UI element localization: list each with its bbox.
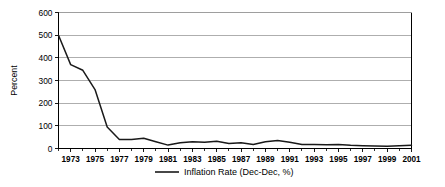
x-tick-label: 1987	[232, 155, 251, 164]
y-axis-title: Percent	[9, 65, 19, 96]
y-tick-label: 300	[39, 76, 53, 86]
x-tick-label: 1973	[62, 155, 81, 164]
x-tick-label: 1975	[86, 155, 105, 164]
y-tick-label: 200	[39, 98, 53, 108]
x-tick-label: 1989	[256, 155, 275, 164]
inflation-rate-line-chart: 0100200300400500600 19731975197719791981…	[0, 0, 445, 187]
y-tick-label: 0	[48, 144, 53, 154]
x-tick-label: 1981	[159, 155, 178, 164]
y-tick-label: 500	[39, 30, 53, 40]
chart-container: 0100200300400500600 19731975197719791981…	[0, 0, 445, 187]
x-tick-label: 1997	[354, 155, 373, 164]
y-tick-label: 100	[39, 121, 53, 131]
x-tick-label: 1991	[281, 155, 300, 164]
y-tick-label: 600	[39, 8, 53, 18]
x-tick-label: 1983	[183, 155, 202, 164]
x-axis-tick-labels: 1973197519771979198119831985198719891991…	[62, 155, 421, 164]
legend-label-inflation-rate: Inflation Rate (Dec-Dec, %)	[184, 167, 294, 177]
x-tick-label: 1985	[208, 155, 227, 164]
x-tick-label: 1995	[329, 155, 348, 164]
x-tick-label: 1993	[305, 155, 324, 164]
x-tick-label: 1977	[110, 155, 129, 164]
x-tick-label: 2001	[402, 155, 421, 164]
x-tick-label: 1999	[378, 155, 397, 164]
y-tick-label: 400	[39, 53, 53, 63]
x-tick-label: 1979	[135, 155, 154, 164]
y-axis-title-label: Percent	[9, 65, 19, 96]
